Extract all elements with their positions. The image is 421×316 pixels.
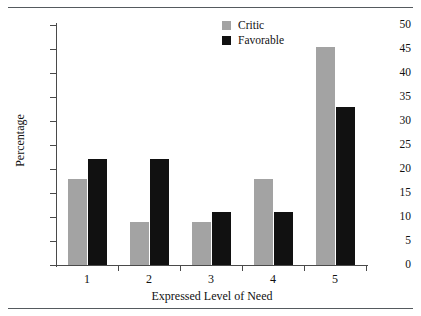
bar-critic-2 (130, 222, 149, 265)
bar-critic-1 (68, 179, 87, 265)
y-tick-label-45: 45 (375, 43, 421, 55)
x-tick-4 (304, 265, 305, 271)
x-tick-label-1: 1 (67, 272, 107, 286)
bottom-rule (8, 308, 413, 309)
legend-swatch-favorable (222, 36, 231, 45)
legend: Critic Favorable (222, 18, 284, 48)
y-tick-label-15: 15 (375, 187, 421, 199)
plot-area (56, 25, 366, 265)
bar-critic-3 (192, 222, 211, 265)
legend-label-critic: Critic (238, 18, 264, 33)
bar-critic-5 (316, 47, 335, 265)
bar-favorable-1 (88, 159, 107, 265)
bar-favorable-5 (336, 107, 355, 265)
x-tick-1 (118, 265, 119, 271)
bar-favorable-4 (274, 212, 293, 265)
x-axis-title: Expressed Level of Need (56, 289, 368, 304)
x-tick-label-2: 2 (129, 272, 169, 286)
y-tick-label-40: 40 (375, 67, 421, 79)
y-tick-label-5: 5 (375, 235, 421, 247)
x-tick-5 (366, 265, 367, 271)
y-tick-label-10: 10 (375, 211, 421, 223)
y-tick-label-50: 50 (375, 19, 421, 31)
x-tick-label-3: 3 (191, 272, 231, 286)
x-tick-2 (180, 265, 181, 271)
chart-figure: 05101520253035404550 12345 Expressed Lev… (0, 0, 421, 316)
bar-favorable-2 (150, 159, 169, 265)
y-tick-label-30: 30 (375, 115, 421, 127)
bar-critic-4 (254, 179, 273, 265)
bar-favorable-3 (212, 212, 231, 265)
y-tick-label-0: 0 (375, 259, 421, 271)
y-tick-label-35: 35 (375, 91, 421, 103)
x-tick-label-4: 4 (253, 272, 293, 286)
top-rule (8, 7, 413, 8)
legend-label-favorable: Favorable (238, 33, 284, 48)
y-axis-title: Percentage (13, 91, 28, 191)
y-tick-0 (50, 265, 57, 266)
x-tick-label-5: 5 (315, 272, 355, 286)
x-tick-3 (242, 265, 243, 271)
x-axis-line (56, 265, 368, 266)
legend-item-favorable: Favorable (222, 33, 284, 48)
y-tick-label-20: 20 (375, 163, 421, 175)
legend-item-critic: Critic (222, 18, 284, 33)
y-tick-label-25: 25 (375, 139, 421, 151)
legend-swatch-critic (222, 21, 231, 30)
